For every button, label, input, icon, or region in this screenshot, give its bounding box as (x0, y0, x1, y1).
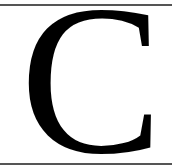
letter-glyph: C (20, 0, 163, 168)
bottom-rule (0, 163, 172, 165)
letter-card: C (0, 0, 172, 168)
